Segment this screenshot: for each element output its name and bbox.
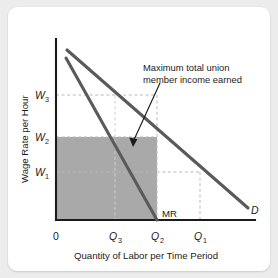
x-axis-title: Quantity of Labor per Time Period [74, 250, 218, 261]
figure-card: Maximum total union member income earned… [8, 7, 270, 271]
y-tick-w3-sub: 3 [45, 95, 49, 104]
annotation-line-2: member income earned [143, 74, 242, 85]
y-tick-w2-sub: 2 [45, 137, 49, 146]
x-tick-origin: 0 [53, 230, 59, 242]
x-tick-q2-sub: 2 [160, 236, 164, 245]
x-tick-q2-base: Q [151, 230, 159, 242]
x-tick-q1: Q 1 [194, 230, 207, 245]
demand-curve-label: D [251, 204, 259, 216]
x-tick-q1-sub: 1 [203, 236, 207, 245]
x-tick-q3-base: Q [109, 230, 117, 242]
shaded-region-max-union-income [56, 137, 157, 220]
y-tick-w1: W 1 [35, 166, 49, 181]
y-tick-w2: W 2 [35, 131, 49, 146]
x-tick-q1-base: Q [194, 230, 202, 242]
marginal-revenue-curve-label: MR [162, 208, 177, 219]
x-tick-q2: Q 2 [151, 230, 164, 245]
y-axis-title: Wage Rate per Hour [19, 95, 30, 183]
x-tick-q3: Q 3 [109, 230, 122, 245]
y-tick-w3: W 3 [35, 89, 49, 104]
annotation-line-1: Maximum total union [143, 62, 230, 73]
economics-plot: Maximum total union member income earned… [8, 7, 270, 271]
y-tick-w1-sub: 1 [45, 172, 49, 181]
x-tick-q3-sub: 3 [118, 236, 122, 245]
